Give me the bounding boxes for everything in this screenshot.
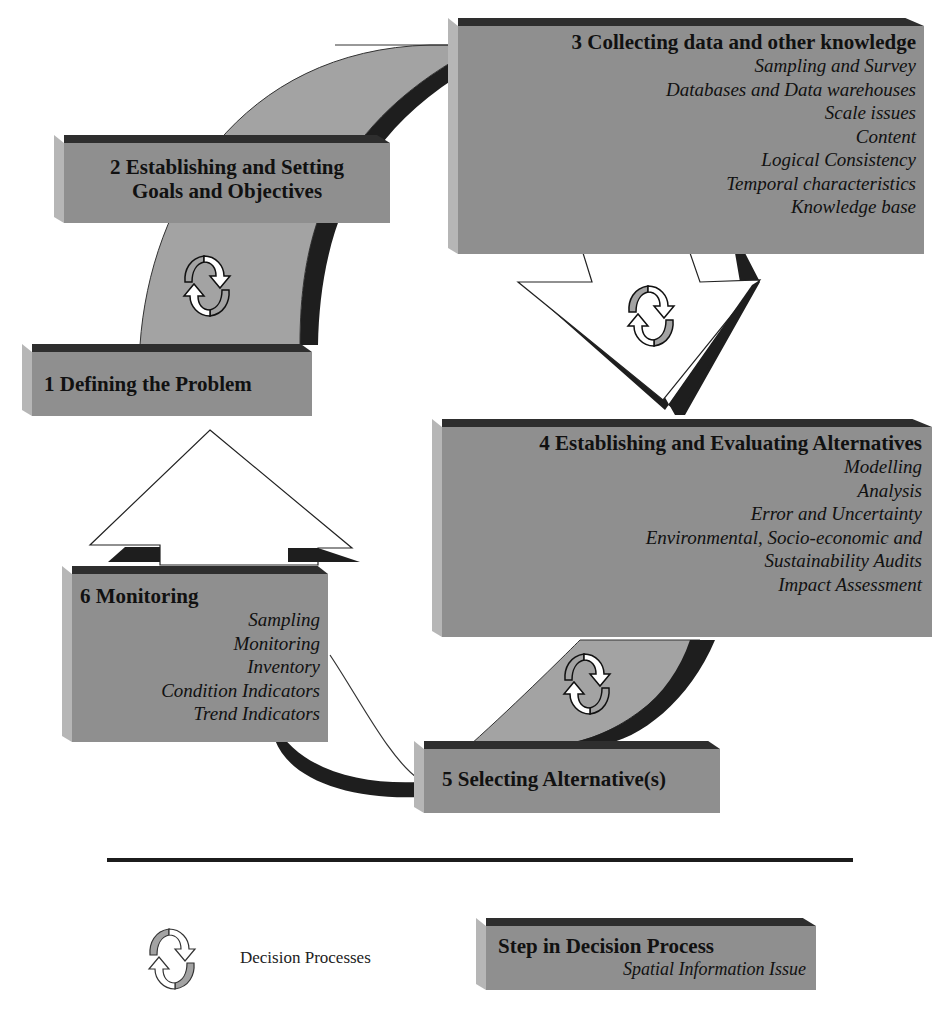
step-4-title: 4 Establishing and Evaluating Alternativ… xyxy=(452,431,922,455)
legend-box-subtitle: Spatial Information Issue xyxy=(498,958,806,980)
issue-item: Trend Indicators xyxy=(80,702,320,726)
step-6-issues: Sampling Monitoring Inventory Condition … xyxy=(80,608,320,726)
step-2-title-line1: 2 Establishing and Setting xyxy=(74,155,380,179)
step-1-title: 1 Defining the Problem xyxy=(44,372,302,396)
step-6-box: 6 Monitoring Sampling Monitoring Invento… xyxy=(72,574,328,742)
step-3-issues: Sampling and Survey Databases and Data w… xyxy=(468,54,916,219)
issue-item: Logical Consistency xyxy=(468,148,916,172)
step-4-issues: Modelling Analysis Error and Uncertainty… xyxy=(452,455,922,596)
legend-box-title: Step in Decision Process xyxy=(498,934,806,958)
legend-cycle-label: Decision Processes xyxy=(240,948,371,968)
step-2-box: 2 Establishing and Setting Goals and Obj… xyxy=(64,143,390,223)
issue-item: Impact Assessment xyxy=(452,573,922,597)
legend-divider xyxy=(107,858,853,862)
issue-item: Knowledge base xyxy=(468,195,916,219)
issue-item: Analysis xyxy=(452,479,922,503)
step-5-box: 5 Selecting Alternative(s) xyxy=(424,749,720,813)
step-2-title-line2: Goals and Objectives xyxy=(74,179,380,203)
step-3-title: 3 Collecting data and other knowledge xyxy=(468,30,916,54)
cycle-arrows-icon xyxy=(178,252,236,320)
step-4-box: 4 Establishing and Evaluating Alternativ… xyxy=(442,427,932,637)
issue-item: Sustainability Audits xyxy=(452,549,922,573)
issue-item: Temporal characteristics xyxy=(468,172,916,196)
step-1-box: 1 Defining the Problem xyxy=(32,352,312,416)
issue-item: Sampling and Survey xyxy=(468,54,916,78)
step-3-box: 3 Collecting data and other knowledge Sa… xyxy=(458,26,924,254)
issue-item: Sampling xyxy=(80,608,320,632)
decision-process-diagram: 2 Establishing and Setting Goals and Obj… xyxy=(0,0,949,1018)
issue-item: Databases and Data warehouses xyxy=(468,78,916,102)
issue-item: Scale issues xyxy=(468,101,916,125)
issue-item: Monitoring xyxy=(80,632,320,656)
issue-item: Content xyxy=(468,125,916,149)
issue-item: Environmental, Socio-economic and xyxy=(452,526,922,550)
issue-item: Modelling xyxy=(452,455,922,479)
issue-item: Error and Uncertainty xyxy=(452,502,922,526)
step-6-title: 6 Monitoring xyxy=(80,584,320,608)
issue-item: Inventory xyxy=(80,655,320,679)
issue-item: Condition Indicators xyxy=(80,679,320,703)
legend-step-box-main: Step in Decision Process Spatial Informa… xyxy=(486,926,816,990)
cycle-arrows-icon xyxy=(622,282,680,350)
legend-cycle-arrows-icon xyxy=(143,925,201,993)
cycle-arrows-icon xyxy=(558,650,616,718)
step-5-title: 5 Selecting Alternative(s) xyxy=(442,767,710,791)
